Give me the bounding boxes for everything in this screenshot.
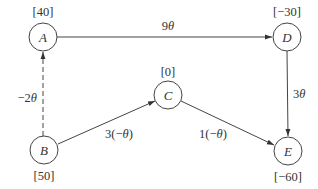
graph-svg: 9θ 3θ −2θ 3(−θ) 1(−θ) A [40] D [−30]	[0, 0, 318, 189]
node-value: [0]	[161, 65, 176, 79]
edge-b-to-c: 3(−θ)	[58, 101, 155, 144]
edge-label-b-a: −2θ	[18, 91, 37, 105]
node-value: [50]	[34, 169, 55, 183]
edge-line	[181, 101, 274, 145]
edge-b-to-a: −2θ	[18, 52, 43, 136]
node-label: A	[38, 30, 47, 45]
edge-label-a-d: 9θ	[162, 19, 174, 33]
node-label: E	[283, 144, 292, 159]
node-value: [−30]	[273, 5, 301, 19]
node-c: C [0]	[154, 65, 182, 109]
node-b: B [50]	[30, 136, 58, 183]
node-value: [−60]	[274, 170, 302, 184]
edge-c-to-e: 1(−θ)	[181, 101, 274, 145]
edge-d-to-e: 3θ	[287, 51, 305, 136]
node-label: D	[281, 30, 292, 45]
node-e: E [−60]	[274, 137, 302, 184]
graph-diagram: 9θ 3θ −2θ 3(−θ) 1(−θ) A [40] D [−30]	[0, 0, 318, 189]
edge-a-to-d: 9θ	[57, 19, 272, 37]
edge-line	[287, 51, 288, 136]
edge-label-d-e: 3θ	[293, 87, 305, 101]
node-label: C	[164, 88, 173, 103]
node-a: A [40]	[29, 5, 57, 51]
edge-label-c-e: 1(−θ)	[199, 127, 227, 141]
node-d: D [−30]	[273, 5, 301, 51]
node-label: B	[40, 143, 48, 158]
node-value: [40]	[33, 5, 54, 19]
edge-label-b-c: 3(−θ)	[105, 127, 133, 141]
